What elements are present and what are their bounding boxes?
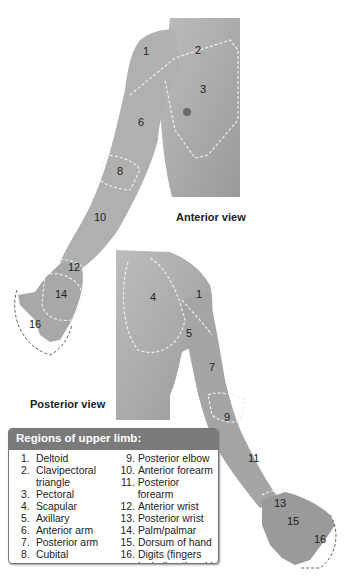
region-number: 3 [200,84,206,95]
legend-item: 7. Posterior arm [21,537,117,549]
region-number: 5 [186,328,192,339]
anterior-shoulder-arm [60,29,180,270]
region-number: 8 [117,166,123,177]
legend-item: triangle [21,477,117,489]
region-number: 12 [68,262,80,273]
regions-legend: Regions of upper limb: 1. Deltoid 2. Cla… [8,428,219,564]
region-number: 9 [224,412,230,423]
legend-item: 8. Cubital [21,549,117,561]
region-number: 13 [274,498,286,509]
legend-item: 16. Digits (fingers [117,549,217,561]
legend-title: Regions of upper limb: [9,429,218,450]
legend-item: 14. Palm/palmar [117,525,217,537]
legend-column-left: 1. Deltoid 2. Clavipectoral triangle 3. … [21,453,117,564]
legend-item: including thumb) [117,561,217,564]
region-number: 15 [287,516,299,527]
legend-item: 15. Dorsum of hand [117,537,217,549]
region-number: 7 [209,362,215,373]
region-number: 1 [143,46,149,57]
legend-item: 12. Anterior wrist [117,501,217,513]
legend-item: 9. Posterior elbow [117,453,217,465]
legend-item: 13. Posterior wrist [117,513,217,525]
legend-item: 4. Scapular [21,501,117,513]
region-number: 16 [314,534,326,545]
legend-item: 2. Clavipectoral [21,465,117,477]
region-number: 2 [195,45,201,56]
legend-item: 11. Posterior forearm [117,477,217,501]
legend-item: 5. Axillary [21,513,117,525]
region-number: 16 [29,319,41,330]
legend-item: 1. Deltoid [21,453,117,465]
legend-item: 3. Pectoral [21,489,117,501]
region-number: 4 [150,292,156,303]
posterior-view-label: Posterior view [30,398,105,410]
legend-item: 10. Anterior forearm [117,465,217,477]
region-number: 11 [248,453,259,464]
region-number: 1 [196,289,202,300]
region-number: 6 [138,117,144,128]
legend-item: 6. Anterior arm [21,525,117,537]
region-number: 10 [94,212,106,223]
legend-column-right: 9. Posterior elbow 10. Anterior forearm … [117,453,217,564]
anterior-view-label: Anterior view [176,211,246,223]
region-number: 14 [55,289,67,300]
posterior-hand [262,492,335,565]
